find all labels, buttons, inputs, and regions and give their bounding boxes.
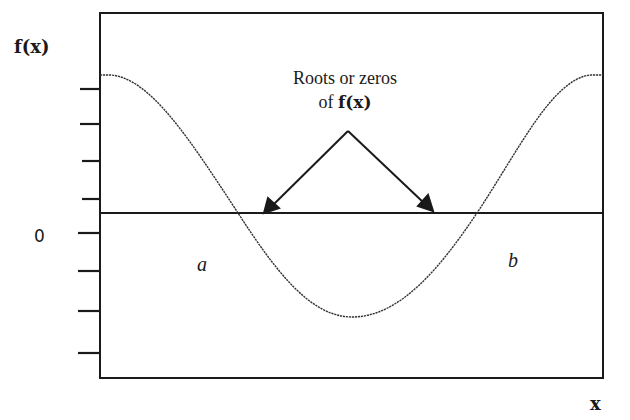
y-axis-label: f(x) (14, 36, 50, 57)
annotation-prefix: of (318, 92, 338, 112)
annotation-function: f(x) (338, 92, 372, 112)
arrow-to-left-root (272, 131, 348, 206)
annotation-line-1: Roots or zeros (245, 66, 445, 90)
function-plot (0, 0, 630, 420)
arrow-to-right-root (348, 131, 424, 203)
roots-annotation: Roots or zeros of f(x) (245, 66, 445, 114)
x-axis-label: x (590, 393, 601, 414)
arrowhead-right (418, 195, 433, 211)
zero-tick-label: 0 (34, 226, 45, 246)
root-a-label: a (197, 253, 207, 276)
root-b-label: b (508, 249, 518, 272)
root-arrows (264, 131, 433, 213)
annotation-line-2: of f(x) (245, 90, 445, 114)
y-axis-ticks (78, 89, 100, 353)
